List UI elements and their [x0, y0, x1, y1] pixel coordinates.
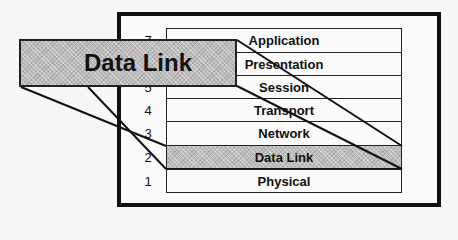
layer-name: Session: [259, 80, 309, 95]
layer-number: 4: [140, 103, 156, 118]
layer-number: 1: [140, 174, 156, 189]
layer-name: Physical: [258, 174, 311, 189]
layer-number: 2: [140, 150, 156, 165]
layer-row-physical: Physical: [166, 169, 402, 193]
layer-row-network: Network: [166, 121, 402, 146]
layer-name: Network: [258, 126, 309, 141]
layer-name: Transport: [254, 103, 314, 118]
layer-name: Data Link: [255, 150, 314, 165]
data-link-callout: Data Link: [19, 39, 237, 87]
layer-row-data-link: Data Link: [166, 145, 402, 170]
layer-number: 3: [140, 126, 156, 141]
layer-name: Presentation: [245, 57, 324, 72]
layer-row-transport: Transport: [166, 98, 402, 122]
layer-name: Application: [249, 33, 320, 48]
callout-label: Data Link: [84, 49, 192, 77]
